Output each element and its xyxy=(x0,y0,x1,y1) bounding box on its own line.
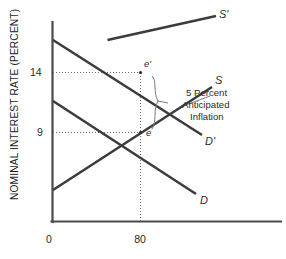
x-tick-label-80: 80 xyxy=(134,233,146,245)
x-tick-label-0: 0 xyxy=(46,233,52,245)
point-label-e-prime: e' xyxy=(144,58,152,69)
point-label-e: e xyxy=(146,127,151,138)
annotation-line-3: Inflation xyxy=(190,111,224,122)
y-tick-label-14: 14 xyxy=(30,66,42,78)
point-e-marker xyxy=(139,131,142,134)
curve-s-prime-render xyxy=(108,16,217,40)
curve-label-d-prime: D' xyxy=(205,135,216,147)
annotation-line-1: 5 Percent xyxy=(186,87,227,98)
curve-label-d: D xyxy=(200,194,208,206)
point-e-prime-marker xyxy=(139,71,142,74)
brace-pointer xyxy=(158,101,168,103)
interest-rate-chart: NOMINAL INTEREST RATE (PERCENT) xyxy=(0,0,286,259)
curve-d xyxy=(53,101,196,194)
chart-svg: NOMINAL INTEREST RATE (PERCENT) xyxy=(0,0,286,259)
y-tick-label-9: 9 xyxy=(37,126,43,138)
curve-d-prime xyxy=(53,40,202,135)
curve-label-s-prime: S' xyxy=(219,8,229,20)
annotation-line-2: Anticipated xyxy=(182,99,229,110)
curve-label-s: S xyxy=(215,74,223,86)
y-axis-title: NOMINAL INTEREST RATE (PERCENT) xyxy=(9,9,20,200)
